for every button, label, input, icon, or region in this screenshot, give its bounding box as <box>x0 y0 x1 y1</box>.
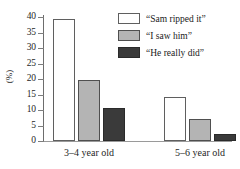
legend-item: “He really did” <box>118 45 206 60</box>
y-axis-tick-label-text: 0 <box>14 136 36 146</box>
y-axis-tick-label-text: 15 <box>14 90 36 100</box>
y-axis-tick-label-text: 35 <box>14 28 36 38</box>
bar <box>164 97 186 141</box>
legend-item-label: “I saw him” <box>146 31 192 41</box>
y-axis-tick-label-text: 40 <box>14 12 36 22</box>
legend-item-label: “He really did” <box>146 48 204 58</box>
y-axis-tick-label: 15 <box>14 90 36 100</box>
x-axis-group-label: 3–4 year old <box>49 147 129 158</box>
legend-item: “Sam ripped it” <box>118 11 206 26</box>
y-axis-tick-label: 25 <box>14 59 36 69</box>
y-axis-tick-label-text: 5 <box>14 121 36 131</box>
gray-swatch <box>118 30 140 41</box>
chart-legend: “Sam ripped it”“I saw him”“He really did… <box>118 11 206 62</box>
y-axis-tick-label-text: 30 <box>14 43 36 53</box>
y-axis-tick-label-text: 25 <box>14 59 36 69</box>
bar <box>103 108 125 141</box>
y-axis-tick-label: 0 <box>14 136 36 146</box>
legend-item: “I saw him” <box>118 28 206 43</box>
x-axis-group-label: 5–6 year old <box>160 147 240 158</box>
y-axis-tick-label: 30 <box>14 43 36 53</box>
white-swatch <box>118 13 140 24</box>
y-axis-tick-label-text: 20 <box>14 74 36 84</box>
y-axis-title: (%) <box>5 60 14 94</box>
bar <box>78 80 100 141</box>
y-axis-tick-label: 40 <box>14 12 36 22</box>
y-axis-tick-label-text: 10 <box>14 105 36 115</box>
dark-swatch <box>118 47 140 58</box>
legend-item-label: “Sam ripped it” <box>146 14 206 24</box>
y-axis-tick <box>38 141 44 142</box>
y-axis-tick-label: 10 <box>14 105 36 115</box>
bar <box>53 19 75 141</box>
y-axis-tick-label: 20 <box>14 74 36 84</box>
y-axis-tick-label: 35 <box>14 28 36 38</box>
bar-chart-figure: (%) 0510152025303540 3–4 year old5–6 yea… <box>0 0 240 169</box>
bar <box>214 134 236 141</box>
bar <box>189 119 211 141</box>
x-axis-line <box>43 141 232 142</box>
y-axis-tick-label: 5 <box>14 121 36 131</box>
